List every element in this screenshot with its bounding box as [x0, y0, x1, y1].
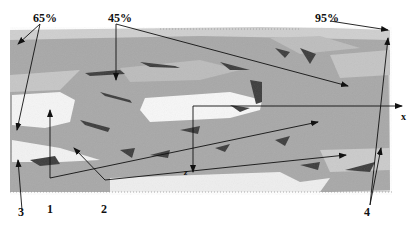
axis-label-z: z: [184, 168, 188, 177]
label-1: 1: [47, 203, 53, 215]
label-2: 2: [101, 203, 107, 215]
surface-diagram: [0, 0, 413, 225]
axis-label-x: x: [401, 112, 406, 122]
label-45-percent: 45%: [108, 12, 132, 24]
label-95-percent: 95%: [315, 12, 339, 24]
label-65-percent: 65%: [33, 12, 57, 24]
label-3: 3: [18, 206, 24, 218]
label-4: 4: [364, 206, 370, 218]
